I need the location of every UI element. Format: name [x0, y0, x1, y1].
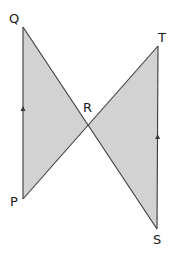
label-q: Q — [9, 11, 19, 26]
label-s: S — [153, 232, 161, 247]
label-p: P — [10, 194, 18, 209]
triangle-rst-fill — [88, 46, 158, 229]
diagram-canvas: Q T R P S — [0, 0, 172, 253]
label-t: T — [157, 30, 166, 45]
label-r: R — [83, 100, 92, 115]
triangle-pqr-fill — [23, 27, 88, 199]
